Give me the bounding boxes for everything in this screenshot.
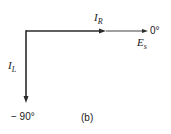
- es-subscript: s: [144, 42, 147, 51]
- es-arrowhead-icon: [142, 29, 148, 33]
- figure-caption: (b): [81, 113, 93, 123]
- il-arrowhead-icon: [24, 96, 29, 103]
- minus-ninety-degree-label: − 90°: [11, 112, 35, 122]
- ir-arrowhead-icon: [99, 29, 106, 34]
- il-label: IL: [8, 60, 16, 74]
- il-subscript: L: [12, 65, 16, 74]
- ir-subscript: R: [98, 17, 103, 26]
- es-label: Es: [137, 37, 147, 51]
- ir-label: IR: [94, 12, 103, 26]
- es-symbol: E: [137, 36, 144, 48]
- zero-degree-label: 0°: [150, 26, 160, 36]
